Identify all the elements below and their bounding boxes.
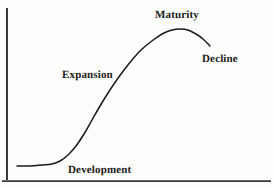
stage-label-decline: Decline [202, 53, 238, 65]
stage-label-expansion: Expansion [62, 69, 113, 81]
stage-label-maturity: Maturity [155, 9, 199, 21]
life-cycle-curve [17, 29, 210, 166]
life-cycle-diagram: Maturity Decline Expansion Development [0, 0, 273, 188]
curve-canvas [0, 0, 273, 188]
stage-label-development: Development [68, 164, 131, 176]
